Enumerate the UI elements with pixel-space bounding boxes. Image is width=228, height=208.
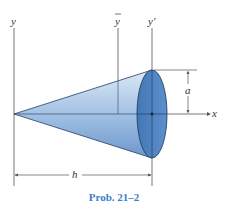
dim-h-arrow-right-icon xyxy=(148,174,152,177)
figure-caption: Prob. 21–2 xyxy=(89,191,140,203)
dim-a-arrow-down-icon xyxy=(187,110,190,114)
dim-h-arrow-left-icon xyxy=(15,174,19,177)
y-prime-axis-label: y′ xyxy=(147,15,156,27)
cone-diagram: y y y′ x a h Prob. 21–2 xyxy=(0,0,228,208)
y-bar-axis-label: y xyxy=(114,15,120,27)
centroid-dot xyxy=(151,113,154,116)
y-axis-label: y xyxy=(10,15,16,27)
dim-a-arrow-up-icon xyxy=(187,71,190,75)
x-axis-arrow-icon xyxy=(207,112,211,116)
x-axis-label: x xyxy=(211,107,217,119)
dim-a-label: a xyxy=(185,84,191,96)
dim-h-label: h xyxy=(72,168,78,180)
